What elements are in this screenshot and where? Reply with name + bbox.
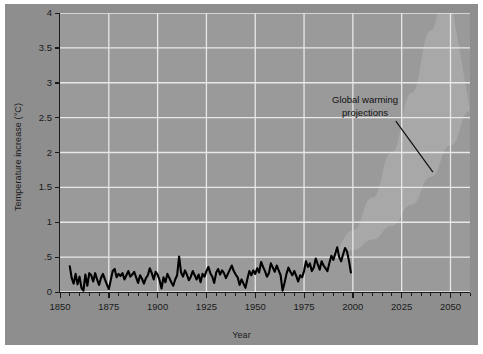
x-minor-tick-mark <box>99 293 100 296</box>
x-minor-tick-mark <box>274 293 275 296</box>
x-minor-tick-mark <box>470 293 471 296</box>
x-tick-mark <box>255 293 256 298</box>
x-minor-tick-mark <box>294 293 295 296</box>
y-tick-label: 3.5 <box>12 42 52 53</box>
x-minor-tick-mark <box>225 293 226 296</box>
x-tick-mark <box>108 293 109 298</box>
x-minor-tick-mark <box>177 293 178 296</box>
x-minor-tick-mark <box>391 293 392 296</box>
x-minor-tick-mark <box>284 293 285 296</box>
plot-canvas <box>60 13 470 292</box>
y-tick-label: 4 <box>12 7 52 18</box>
y-axis-line <box>59 13 60 292</box>
x-tick-mark <box>450 293 451 298</box>
x-tick-label: 2000 <box>328 301 378 312</box>
x-minor-tick-mark <box>372 293 373 296</box>
y-tick-label: .5 <box>12 251 52 262</box>
x-tick-label: 2025 <box>377 301 427 312</box>
x-tick-mark <box>304 293 305 298</box>
x-minor-tick-mark <box>382 293 383 296</box>
x-minor-tick-mark <box>186 293 187 296</box>
y-tick-mark <box>55 47 59 48</box>
x-tick-label: 1975 <box>279 301 329 312</box>
x-minor-tick-mark <box>313 293 314 296</box>
x-tick-mark <box>401 293 402 298</box>
x-tick-mark <box>352 293 353 298</box>
x-tick-label: 1925 <box>181 301 231 312</box>
y-axis-title-text: Temperature increase (°C) <box>13 92 23 222</box>
x-minor-tick-mark <box>69 293 70 296</box>
x-minor-tick-mark <box>167 293 168 296</box>
x-minor-tick-mark <box>118 293 119 296</box>
x-tick-mark <box>157 293 158 298</box>
x-tick-label: 2050 <box>425 301 475 312</box>
x-minor-tick-mark <box>216 293 217 296</box>
x-tick-mark <box>206 293 207 298</box>
x-minor-tick-mark <box>89 293 90 296</box>
y-tick-mark <box>55 292 59 293</box>
x-tick-label: 1900 <box>133 301 183 312</box>
x-minor-tick-mark <box>333 293 334 296</box>
x-minor-tick-mark <box>138 293 139 296</box>
x-tick-label: 1850 <box>35 301 85 312</box>
x-minor-tick-mark <box>411 293 412 296</box>
x-minor-tick-mark <box>128 293 129 296</box>
y-tick-mark <box>55 187 59 188</box>
y-tick-mark <box>55 257 59 258</box>
x-tick-mark <box>60 293 61 298</box>
x-minor-tick-mark <box>245 293 246 296</box>
y-axis-title: Temperature increase (°C) <box>0 0 9 92</box>
y-tick-mark <box>55 82 59 83</box>
x-minor-tick-mark <box>323 293 324 296</box>
chart-figure: 0.511.522.533.54 18501875190019251950197… <box>0 0 483 354</box>
x-minor-tick-mark <box>430 293 431 296</box>
x-minor-tick-mark <box>265 293 266 296</box>
x-minor-tick-mark <box>147 293 148 296</box>
x-minor-tick-mark <box>79 293 80 296</box>
x-minor-tick-mark <box>440 293 441 296</box>
y-tick-mark <box>55 13 59 14</box>
y-tick-label: 0 <box>12 286 52 297</box>
y-tick-mark <box>55 117 59 118</box>
plot-area <box>60 13 470 292</box>
x-minor-tick-mark <box>343 293 344 296</box>
x-minor-tick-mark <box>235 293 236 296</box>
x-minor-tick-mark <box>362 293 363 296</box>
x-tick-label: 1875 <box>84 301 134 312</box>
series-line <box>70 247 351 290</box>
y-tick-mark <box>55 222 59 223</box>
y-tick-mark <box>55 152 59 153</box>
x-minor-tick-mark <box>196 293 197 296</box>
x-minor-tick-mark <box>421 293 422 296</box>
x-tick-label: 1950 <box>230 301 280 312</box>
projection-annotation: Global warming projections <box>300 93 430 119</box>
x-axis-title: Year <box>0 330 483 340</box>
x-minor-tick-mark <box>460 293 461 296</box>
y-tick-label: 3 <box>12 77 52 88</box>
